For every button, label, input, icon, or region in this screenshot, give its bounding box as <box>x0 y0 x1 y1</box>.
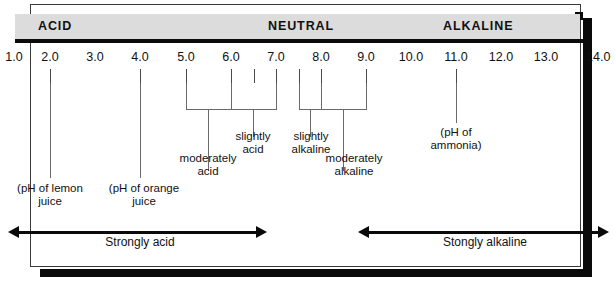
bracket-alkaline-stem-left <box>299 83 300 109</box>
leader-orange-juice <box>140 83 141 178</box>
callout-orange-juice: (pH of orangejuice <box>88 182 200 208</box>
tick-mark-9 <box>366 69 367 83</box>
arrow-label-strongly-acid: Strongly acid <box>40 235 240 249</box>
range-label-slightly-alkaline-line1: slightly <box>293 130 328 142</box>
tick-mark-7-5 <box>299 69 300 83</box>
leader-lemon-juice <box>50 83 51 178</box>
range-label-moderately-alkaline: moderatelyalkaline <box>306 152 402 178</box>
tick-mark-6 <box>231 69 232 83</box>
callout-lemon-juice-line1: (pH of lemon <box>17 182 83 194</box>
arrow-head-strongly-acid-right <box>256 226 267 238</box>
range-label-slightly-acid-line1: slightly <box>235 130 270 142</box>
tick-mark-5 <box>186 69 187 83</box>
range-label-moderately-acid-line2: acid <box>197 165 218 177</box>
tick-mark-2 <box>50 69 51 83</box>
scale-tick-label-14: 14.0 <box>586 50 615 64</box>
range-label-moderately-alkaline-line2: alkaline <box>335 165 374 177</box>
callout-orange-juice-line1: (pH of orange <box>109 182 179 194</box>
bracket-alkaline-stem-right <box>366 83 367 109</box>
bracket-acid-stem-left <box>186 83 187 109</box>
frame-bottom-line <box>30 266 581 267</box>
callout-ammonia: (pH ofammonia) <box>406 126 506 152</box>
arrow-label-strongly-alkaline: Stongly alkaline <box>390 235 580 249</box>
range-label-moderately-alkaline-line1: moderately <box>326 152 383 164</box>
header-rule <box>15 39 583 43</box>
callout-ammonia-line1: (pH of <box>440 126 471 138</box>
ph-scale-diagram: ACID NEUTRAL ALKALINE 1.0 2.0 3.0 4.0 5.… <box>0 0 615 287</box>
tick-mark-4 <box>140 69 141 83</box>
tick-mark-7 <box>276 69 277 83</box>
tick-mark-8 <box>321 69 322 83</box>
frame-left-line <box>30 4 31 267</box>
tick-mark-6-5 <box>254 69 255 83</box>
bracket-acid-stem-mid <box>231 83 232 109</box>
arrow-shaft-strongly-acid <box>18 231 258 234</box>
bracket-acid-stem-right <box>276 83 277 109</box>
band-label-neutral: NEUTRAL <box>268 19 334 33</box>
bracket-acid-rail <box>186 109 277 110</box>
callout-lemon-juice-line2: juice <box>38 195 62 207</box>
range-label-slightly-acid-line2: acid <box>242 143 263 155</box>
band-label-acid: ACID <box>38 19 72 33</box>
frame-top-line <box>30 4 581 5</box>
leader-ammonia <box>456 83 457 123</box>
bracket-alkaline-stem-mid <box>321 83 322 109</box>
tick-mark-11 <box>456 69 457 83</box>
callout-ammonia-line2: ammonia) <box>430 139 481 151</box>
arrow-shaft-strongly-alkaline <box>368 231 600 234</box>
scale-tick-label-13: 13.0 <box>516 50 576 64</box>
frame-shadow-bottom <box>40 269 592 277</box>
band-label-alkaline: ALKALINE <box>443 19 513 33</box>
arrow-head-strongly-alkaline-right <box>598 226 609 238</box>
frame-right-line <box>580 4 581 267</box>
callout-orange-juice-line2: juice <box>132 195 156 207</box>
